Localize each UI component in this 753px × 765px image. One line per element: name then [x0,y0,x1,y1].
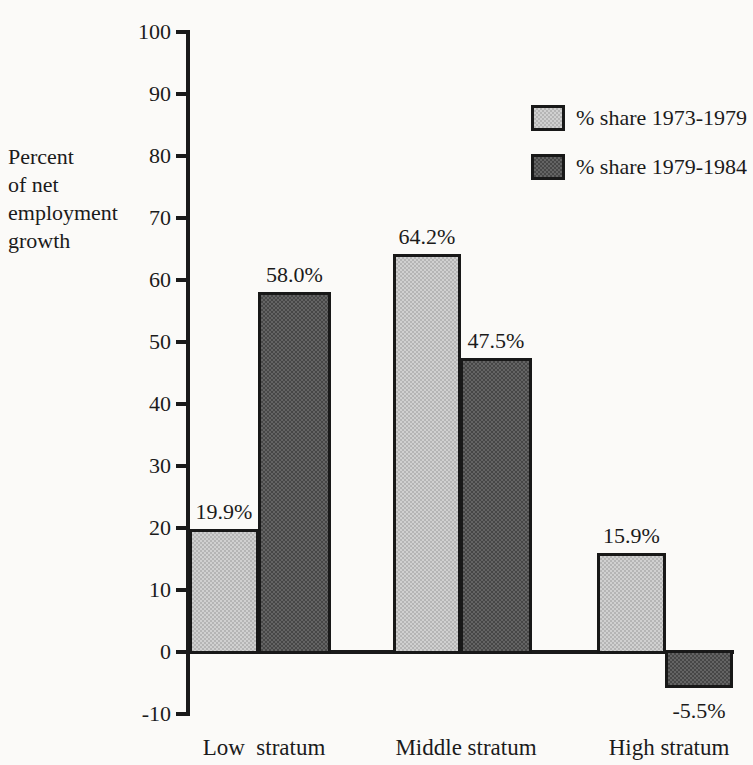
legend-label: % share 1979-1984 [576,154,747,180]
y-tick-mark [176,526,190,530]
y-tick-mark [176,402,190,406]
y-tick-mark [176,216,190,220]
x-category-label: Low stratum [154,734,374,762]
y-tick-mark [176,30,190,34]
bar-dark [258,292,331,654]
y-tick-label: 10 [111,578,171,602]
bar-value-label: -5.5% [629,698,753,724]
x-category-label: High stratum [559,734,753,762]
y-tick-mark [176,588,190,592]
y-tick-label: -10 [111,702,171,726]
legend: % share 1973-1979 % share 1979-1984 [531,105,747,203]
bar-light [393,254,461,654]
bar-dark [665,650,733,688]
x-category-label: Middle stratum [356,734,576,762]
bar-chart-figure: Percent of net employment growth 1009080… [0,0,753,765]
legend-item-1979-1984: % share 1979-1984 [531,154,747,180]
y-tick-mark [176,712,190,716]
y-tick-label: 80 [111,144,171,168]
legend-swatch-light-icon [531,105,565,131]
legend-swatch-dark-icon [531,154,565,180]
y-tick-mark [176,650,190,654]
y-tick-mark [176,464,190,468]
y-tick-label: 100 [111,20,171,44]
bar-light [597,553,666,654]
y-axis-title: Percent of net employment growth [8,143,118,255]
y-tick-mark [176,92,190,96]
y-tick-mark [176,154,190,158]
y-tick-label: 90 [111,82,171,106]
y-tick-label: 70 [111,206,171,230]
y-tick-mark [176,278,190,282]
legend-item-1973-1979: % share 1973-1979 [531,105,747,131]
y-tick-label: 40 [111,392,171,416]
legend-label: % share 1973-1979 [576,105,747,131]
bar-dark [460,358,532,655]
y-tick-label: 0 [111,640,171,664]
y-tick-mark [176,340,190,344]
bar-value-label: 58.0% [225,262,365,288]
bar-value-label: 64.2% [357,224,497,250]
bar-value-label: 47.5% [426,328,566,354]
bar-light [189,529,259,654]
y-tick-label: 30 [111,454,171,478]
bar-value-label: 15.9% [562,523,702,549]
y-tick-label: 50 [111,330,171,354]
y-tick-label: 60 [111,268,171,292]
